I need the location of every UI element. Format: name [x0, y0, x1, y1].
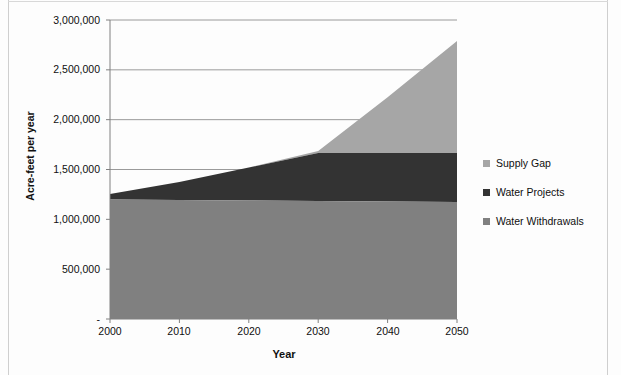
area-series-group: [110, 41, 457, 319]
scanned-page: Acre-feet per year 3,000,000 2,500,000 2…: [0, 0, 621, 375]
legend-item-supply-gap: Supply Gap: [483, 157, 613, 169]
legend-label: Water Withdrawals: [496, 215, 584, 227]
legend-swatch-icon: [483, 189, 490, 196]
area-series-water-projects: [110, 153, 457, 202]
legend-label: Supply Gap: [496, 157, 551, 169]
chart-legend: Supply Gap Water Projects Water Withdraw…: [483, 157, 613, 244]
area-series-water-withdrawals: [110, 199, 457, 319]
stacked-area-chart: Acre-feet per year 3,000,000 2,500,000 2…: [0, 0, 621, 375]
legend-item-water-projects: Water Projects: [483, 186, 613, 198]
legend-item-water-withdrawals: Water Withdrawals: [483, 215, 613, 227]
legend-swatch-icon: [483, 218, 490, 225]
legend-label: Water Projects: [496, 186, 564, 198]
legend-swatch-icon: [483, 160, 490, 167]
